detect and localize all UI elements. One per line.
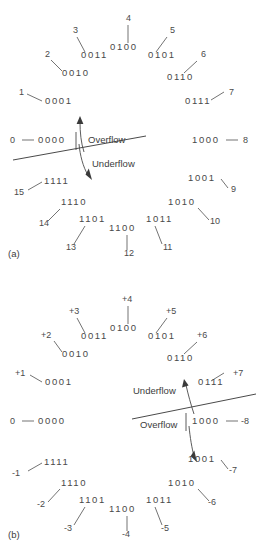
- binary-label-b-1111: 1111: [44, 456, 69, 467]
- binary-label-b-0110: 0110: [167, 352, 194, 363]
- decimal-label-a-6: 6: [201, 49, 206, 59]
- binary-label-b-0100: 0100: [110, 322, 138, 333]
- leader-line-a-0001: [27, 94, 42, 101]
- binary-label-b-1000: 1000: [192, 415, 220, 426]
- decimal-label-a-0: 0: [10, 135, 15, 145]
- binary-label-a-0000: 0000: [38, 134, 66, 145]
- decimal-label-b-minus4: -4: [122, 529, 130, 539]
- decimal-label-a-7: 7: [229, 87, 234, 97]
- binary-label-a-1110: 1110: [61, 196, 87, 207]
- overflow-label-a: Overflow: [88, 134, 126, 145]
- binary-number-circle-figure: Overflow Underflow 0000 0001 0010 0011 0…: [0, 0, 265, 554]
- binary-label-a-0010: 0010: [62, 67, 90, 78]
- leader-line-a-1110: [48, 209, 60, 221]
- decimal-label-b-0: 0: [10, 416, 15, 426]
- decimal-label-a-5: 5: [170, 25, 175, 35]
- binary-label-b-0111: 0111: [198, 376, 224, 387]
- leader-line-a-0111: [211, 92, 224, 100]
- leader-line-b-1101: [74, 507, 85, 525]
- binary-label-a-0011: 0011: [81, 49, 108, 60]
- decimal-label-a-13: 13: [66, 242, 76, 252]
- decimal-label-a-3: 3: [73, 25, 78, 35]
- decimal-label-b-minus5: -5: [161, 523, 169, 533]
- panel-b-binary-labels: 0000 0001 0010 0011 0100 0101 0110 0111 …: [38, 322, 224, 514]
- leader-line-a-1001: [221, 179, 228, 188]
- binary-label-b-0000: 0000: [38, 415, 66, 426]
- panel-b: Underflow Overflow 0000 0001 0010 0011 0…: [8, 294, 256, 540]
- leader-line-b-1001: [221, 460, 228, 469]
- binary-label-a-1001: 1001: [188, 172, 216, 183]
- panel-a: Overflow Underflow 0000 0001 0010 0011 0…: [8, 13, 248, 259]
- binary-label-b-1110: 1110: [61, 477, 87, 488]
- overflow-arrow-a: [77, 116, 84, 152]
- binary-label-b-1001: 1001: [188, 453, 216, 464]
- decimal-label-b-plus7: +7: [233, 368, 243, 378]
- binary-label-b-1011: 1011: [146, 494, 173, 505]
- binary-label-a-0110: 0110: [167, 71, 194, 82]
- binary-label-a-1011: 1011: [146, 213, 173, 224]
- leader-line-b-1111: [28, 463, 42, 471]
- binary-label-b-0101: 0101: [148, 330, 176, 341]
- panel-label-a: (a): [8, 248, 20, 259]
- binary-label-b-0001: 0001: [45, 376, 73, 387]
- decimal-label-a-4: 4: [126, 13, 131, 23]
- decimal-label-a-14: 14: [39, 218, 49, 228]
- binary-label-b-1100: 1100: [109, 503, 136, 514]
- binary-label-b-0010: 0010: [62, 348, 90, 359]
- binary-label-b-0011: 0011: [81, 330, 108, 341]
- panel-label-b: (b): [8, 529, 20, 540]
- binary-label-a-0101: 0101: [148, 49, 176, 60]
- decimal-label-a-12: 12: [124, 248, 134, 258]
- decimal-label-a-8: 8: [243, 135, 248, 145]
- decimal-label-b-plus3: +3: [69, 306, 79, 316]
- binary-label-a-1111: 1111: [44, 175, 69, 186]
- decimal-label-b-minus8: -8: [241, 416, 249, 426]
- binary-label-b-1101: 1101: [79, 494, 106, 505]
- decimal-label-b-minus3: -3: [64, 523, 72, 533]
- leader-line-a-1011: [155, 226, 162, 244]
- underflow-label-a: Underflow: [92, 158, 135, 169]
- leader-line-b-1110: [48, 489, 60, 502]
- decimal-label-a-11: 11: [163, 242, 172, 252]
- binary-label-a-1101: 1101: [79, 213, 106, 224]
- decimal-label-a-15: 15: [14, 187, 24, 197]
- decimal-label-b-plus4: +4: [122, 294, 132, 304]
- decimal-label-b-plus2: +2: [41, 330, 51, 340]
- decimal-label-a-10: 10: [210, 216, 220, 226]
- binary-label-a-1100: 1100: [109, 222, 136, 233]
- leader-line-a-1010: [198, 208, 209, 220]
- decimal-label-b-minus6: -6: [208, 497, 216, 507]
- leader-line-b-0010: [54, 341, 62, 352]
- leader-line-b-0001: [30, 375, 42, 382]
- binary-label-a-0100: 0100: [110, 41, 138, 52]
- decimal-label-a-9: 9: [231, 184, 236, 194]
- decimal-label-b-minus2: -2: [37, 499, 45, 509]
- overflow-label-b: Overflow: [140, 419, 178, 430]
- underflow-arrow-a: [79, 144, 92, 180]
- underflow-label-b: Underflow: [133, 385, 176, 396]
- binary-label-a-1000: 1000: [192, 134, 220, 145]
- binary-label-a-0111: 0111: [185, 95, 211, 106]
- leader-line-a-0010: [51, 60, 62, 71]
- decimal-label-b-plus6: +6: [197, 330, 207, 340]
- decimal-label-b-plus5: +5: [166, 306, 176, 316]
- decimal-label-b-minus1: -1: [12, 468, 20, 478]
- decimal-label-a-1: 1: [19, 87, 24, 97]
- leader-line-a-1111: [28, 182, 42, 190]
- binary-label-b-1010: 1010: [168, 477, 196, 488]
- decimal-label-a-2: 2: [45, 49, 50, 59]
- binary-label-a-1010: 1010: [168, 196, 196, 207]
- decimal-label-b-plus1: +1: [15, 368, 25, 378]
- binary-label-a-0001: 0001: [45, 95, 73, 106]
- decimal-label-b-minus7: -7: [229, 465, 237, 475]
- panel-a-binary-labels: 0000 0001 0010 0011 0100 0101 0110 0111 …: [38, 41, 220, 233]
